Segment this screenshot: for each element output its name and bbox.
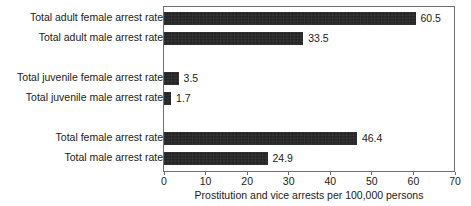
bar-value-juvenile-female: 3.5 (184, 72, 199, 85)
bar-value-male: 24.9 (273, 152, 293, 165)
bar-value-adult-male: 33.5 (308, 32, 328, 45)
category-label-adult-male: Total adult male arrest rate (3, 32, 163, 43)
category-label-female: Total female arrest rate (3, 132, 163, 143)
x-tick-label: 20 (233, 175, 261, 187)
x-tick-label: 70 (441, 175, 469, 187)
x-axis-title: Prostitution and vice arrests per 100,00… (163, 189, 455, 201)
bar-value-female: 46.4 (362, 132, 382, 145)
x-tick-label: 60 (399, 175, 427, 187)
x-tick-label: 40 (316, 175, 344, 187)
bar-male (164, 152, 268, 165)
bar-value-adult-female: 60.5 (421, 12, 441, 25)
x-tick-label: 0 (150, 175, 178, 187)
bar-adult-female (164, 12, 416, 25)
x-tick-label: 50 (358, 175, 386, 187)
category-label-juvenile-male: Total juvenile male arrest rate (3, 92, 163, 103)
bar-juvenile-male (164, 92, 171, 105)
bar-adult-male (164, 32, 303, 45)
category-label-adult-female: Total adult female arrest rate (3, 12, 163, 23)
category-label-juvenile-female: Total juvenile female arrest rate (3, 72, 163, 83)
bar-juvenile-female (164, 72, 179, 85)
x-tick-label: 10 (192, 175, 220, 187)
bar-chart: Total adult female arrest rate Total adu… (0, 0, 471, 206)
bar-female (164, 132, 357, 145)
bar-value-juvenile-male: 1.7 (176, 92, 191, 105)
x-tick-label: 30 (275, 175, 303, 187)
category-label-male: Total male arrest rate (3, 152, 163, 163)
